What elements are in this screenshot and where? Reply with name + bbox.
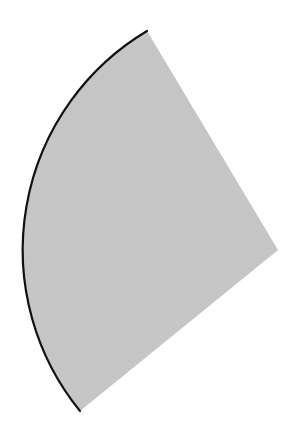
sector-fill: [23, 31, 278, 411]
sector-diagram: [0, 0, 307, 434]
